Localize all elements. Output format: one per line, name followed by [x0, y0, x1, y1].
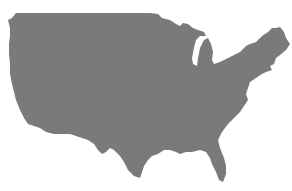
contiguous-us-shape	[8, 13, 290, 182]
us-map-silhouette	[0, 0, 292, 191]
